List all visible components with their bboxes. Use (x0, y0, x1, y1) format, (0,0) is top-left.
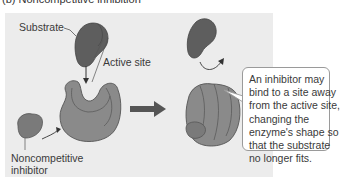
bounce-arrow-icon (200, 58, 224, 70)
callout-line: bind to a site away (249, 86, 323, 99)
callout-line: that the substrate (249, 139, 323, 152)
inhibitor-shape-left (18, 114, 43, 138)
label-inhibitor-line1: Noncompetitive (11, 152, 83, 164)
label-inhibitor-line2: inhibitor (11, 164, 48, 176)
inhibitor-shape-bound (186, 122, 205, 138)
transition-arrow-icon (130, 101, 166, 117)
callout-line: from the active site, (249, 99, 323, 112)
substrate-shape-right (187, 19, 216, 58)
callout-line: no longer fits. (249, 152, 323, 165)
label-substrate: Substrate (19, 21, 64, 33)
enzyme-left (60, 81, 121, 142)
substrate-leader-line (64, 28, 76, 36)
callout-line: enzyme's shape so (249, 126, 323, 139)
callout-line: An inhibitor may (249, 73, 323, 86)
curved-arrow-icon (42, 127, 61, 139)
label-active-site: Active site (103, 56, 151, 68)
explanation-callout: An inhibitor may bind to a site away fro… (242, 67, 330, 151)
down-arrow-icon (83, 66, 89, 84)
callout-line: changing the (249, 113, 323, 126)
